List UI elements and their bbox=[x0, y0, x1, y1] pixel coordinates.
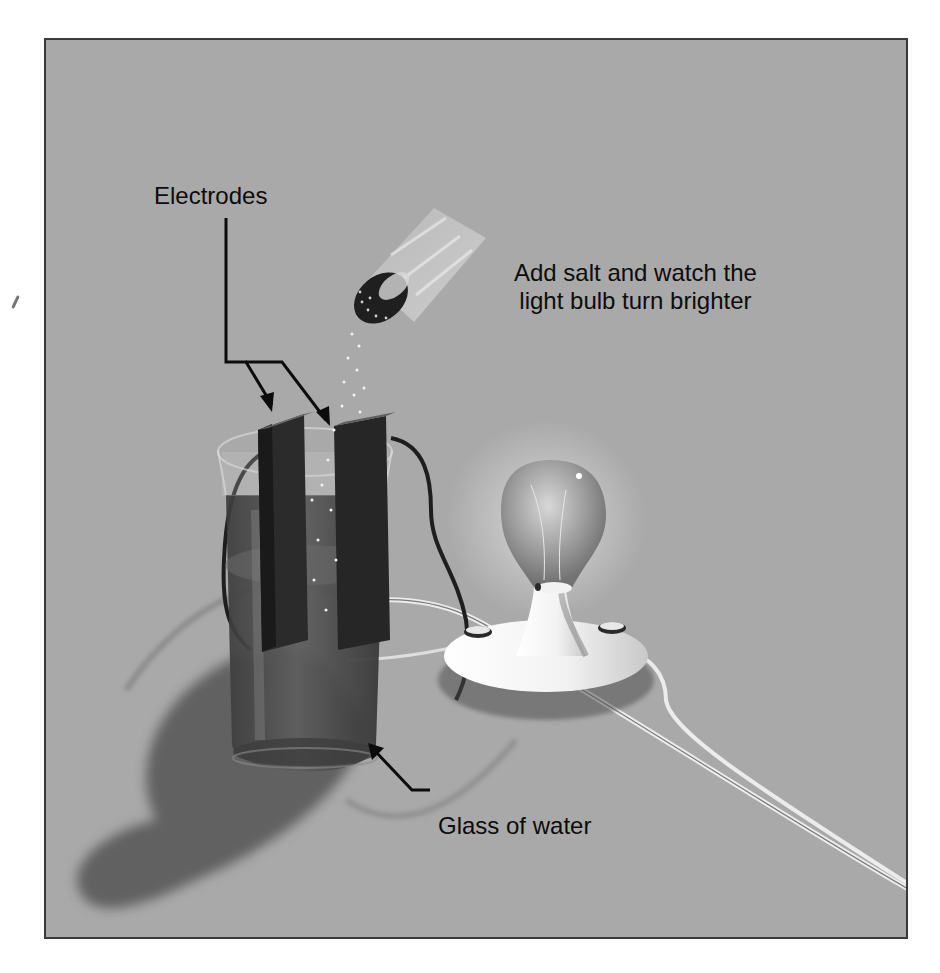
electrodes-label: Electrodes bbox=[154, 182, 267, 210]
light-bulb bbox=[446, 420, 646, 620]
electrodes-callout bbox=[226, 218, 326, 420]
stray-mark bbox=[11, 295, 20, 309]
caption-text: Add salt and watch the light bulb turn b… bbox=[514, 259, 757, 315]
salt-shaker bbox=[344, 208, 486, 334]
experiment-illustration bbox=[46, 40, 908, 939]
caption-line-1: Add salt and watch the bbox=[514, 259, 757, 287]
caption-line-2: light bulb turn brighter bbox=[514, 287, 757, 315]
glass-of-water-label: Glass of water bbox=[438, 812, 591, 840]
figure-frame: Electrodes Add salt and watch the light … bbox=[44, 38, 908, 939]
glass-callout bbox=[368, 743, 430, 790]
